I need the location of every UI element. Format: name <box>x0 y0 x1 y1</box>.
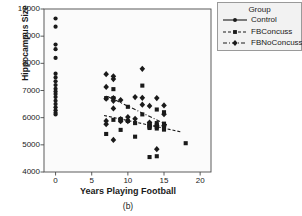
legend-label: Control <box>251 15 277 25</box>
data-point <box>184 141 188 145</box>
legend-marker-diamond-icon <box>222 38 248 48</box>
legend-item-control[interactable]: Control <box>222 15 277 25</box>
legend-item-fbnoconcuss[interactable]: FBNoConcuss <box>222 38 302 48</box>
legend-item-fbconcuss[interactable]: FBConcuss <box>222 27 292 37</box>
legend-label: FBNoConcuss <box>251 38 302 48</box>
data-point <box>53 47 57 51</box>
legend-marker-square-icon <box>222 27 248 37</box>
data-point <box>148 155 152 159</box>
data-point <box>53 75 57 79</box>
data-point <box>111 118 115 122</box>
data-point <box>53 25 57 29</box>
data-point <box>155 154 159 158</box>
data-point <box>140 84 144 88</box>
data-point <box>133 135 137 139</box>
legend: Group ControlFBConcussFBNoConcuss <box>217 2 302 51</box>
data-point <box>53 79 57 83</box>
data-point <box>111 87 115 91</box>
legend-label: FBConcuss <box>251 27 292 37</box>
data-point <box>148 126 152 130</box>
data-point <box>53 83 57 87</box>
scatter-plot-figure: Hippocampus Size Years Playing Football … <box>0 0 302 216</box>
data-point <box>53 56 57 60</box>
legend-title: Group <box>218 5 301 14</box>
data-point <box>155 107 159 111</box>
data-point <box>53 72 57 76</box>
plot-area <box>44 9 211 172</box>
data-point <box>53 95 57 99</box>
legend-marker-circle-icon <box>222 15 248 25</box>
data-point <box>119 128 123 132</box>
data-point <box>104 132 108 136</box>
data-point <box>53 16 57 20</box>
data-point <box>53 112 57 116</box>
data-point <box>53 42 57 46</box>
